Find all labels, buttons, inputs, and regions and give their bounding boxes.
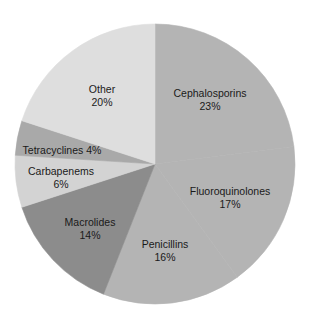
label-other: Other 20% [89, 83, 115, 109]
label-penicillins-pct: 16% [142, 251, 189, 264]
label-tetracyclines-text: Tetracyclines 4% [23, 144, 102, 157]
label-cephalosporins-name: Cephalosporins [174, 87, 247, 100]
label-carbapenems-name: Carbapenems [28, 165, 94, 178]
label-cephalosporins-pct: 23% [174, 100, 247, 113]
label-fluoroquinolones-pct: 17% [190, 198, 271, 211]
label-carbapenems: Carbapenems 6% [28, 165, 94, 191]
label-penicillins-name: Penicillins [142, 238, 189, 251]
label-macrolides-name: Macrolides [65, 216, 116, 229]
label-fluoroquinolones-name: Fluoroquinolones [190, 185, 271, 198]
label-fluoroquinolones: Fluoroquinolones 17% [190, 185, 271, 211]
label-macrolides: Macrolides 14% [65, 216, 116, 242]
label-cephalosporins: Cephalosporins 23% [174, 87, 247, 113]
label-other-pct: 20% [89, 96, 115, 109]
pie-chart-graphic [0, 0, 310, 325]
label-carbapenems-pct: 6% [28, 178, 94, 191]
pie-chart: Other 20% Cephalosporins 23% Tetracyclin… [0, 0, 310, 325]
label-tetracyclines: Tetracyclines 4% [23, 144, 102, 157]
label-penicillins: Penicillins 16% [142, 238, 189, 264]
label-macrolides-pct: 14% [65, 229, 116, 242]
label-other-name: Other [89, 83, 115, 96]
